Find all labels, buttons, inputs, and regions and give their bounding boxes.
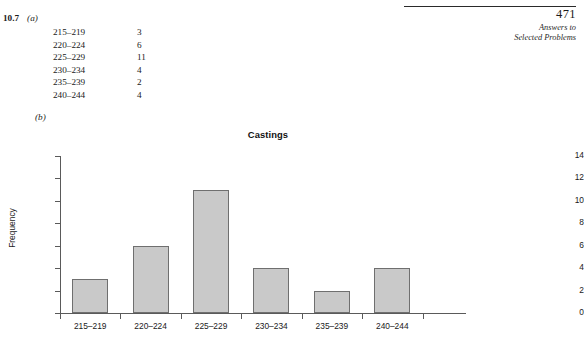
table-row: 220–224 6 [53,39,177,52]
class-interval-cell: 225–229 [53,51,137,64]
class-interval-cell: 215–219 [53,26,137,39]
bar [72,279,108,313]
running-head-line-2: Selected Problems [404,33,576,43]
y-axis-line [60,156,61,314]
frequency-cell: 6 [137,39,177,52]
frequency-cell: 3 [137,26,177,39]
x-tick [120,314,121,319]
frequency-cell: 2 [137,76,177,89]
y-tick [55,291,60,292]
y-tick [55,223,60,224]
y-tick [55,178,60,179]
frequency-table: 215–219 3 220–224 6 225–229 11 230–234 4… [53,26,177,102]
table-row: 235–239 2 [53,76,177,89]
y-tick-label: 2 [538,285,584,295]
class-interval-cell: 220–224 [53,39,137,52]
class-interval-cell: 240–244 [53,89,137,102]
x-tick [423,314,424,319]
x-tick [241,314,242,319]
class-interval-cell: 235–239 [53,76,137,89]
frequency-table-body: 215–219 3 220–224 6 225–229 11 230–234 4… [53,26,177,102]
frequency-cell: 11 [137,51,177,64]
bar [133,246,169,313]
class-interval-cell: 230–234 [53,64,137,77]
table-row: 215–219 3 [53,26,177,39]
plot-area: Frequency 02468101214 215–219220–224225–… [0,125,584,345]
frequency-cell: 4 [137,89,177,102]
bar [253,268,289,313]
y-tick-label: 0 [538,307,584,317]
bar [374,268,410,313]
bar [193,190,229,313]
x-tick [181,314,182,319]
histogram-chart: Castings Frequency 02468101214 215–21922… [0,125,584,345]
y-tick-label: 8 [538,217,584,227]
y-tick [55,246,60,247]
problem-number: 10.7 [3,13,19,23]
frequency-cell: 4 [137,64,177,77]
table-row: 230–234 4 [53,64,177,77]
part-b-row: (b) [35,106,333,124]
y-tick [55,156,60,157]
x-tick-label: 240–244 [352,321,432,331]
bar [314,291,350,313]
folio-wrap: 471 [404,6,576,22]
problem-heading-row: 10.7 (a) [3,7,333,25]
y-tick-label: 4 [538,262,584,272]
table-row: 240–244 4 [53,89,177,102]
part-b-label: (b) [35,112,46,122]
y-tick-label: 10 [538,195,584,205]
x-tick [60,314,61,319]
page-number: 471 [404,8,576,22]
x-tick [362,314,363,319]
part-a-label: (a) [27,13,38,23]
y-tick-label: 12 [538,172,584,182]
problem-block: 10.7 (a) 215–219 3 220–224 6 225–229 11 … [3,7,333,124]
y-tick-label: 14 [538,150,584,160]
page-running-head: 471 Answers to Selected Problems [404,6,576,43]
table-row: 225–229 11 [53,51,177,64]
y-tick-label: 6 [538,240,584,250]
y-tick [55,201,60,202]
y-tick [55,268,60,269]
header-rule [404,6,576,7]
y-axis-title: Frequency [7,198,17,258]
x-tick [302,314,303,319]
running-head-line-1: Answers to [404,23,576,33]
